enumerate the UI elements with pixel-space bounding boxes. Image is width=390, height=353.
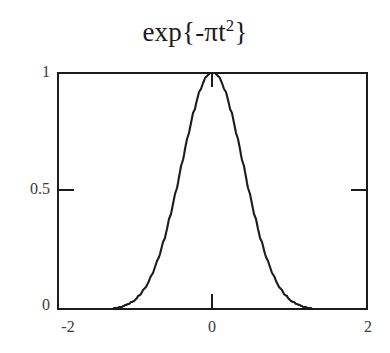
y-axis-tick-label-0: 0 (10, 296, 50, 314)
chart-title-base: exp{-πt (142, 17, 225, 47)
gaussian-plot-figure: exp{-πt2} 1 0.5 0 -2 0 2 (0, 0, 390, 353)
x-axis-tick-label-2: 2 (348, 318, 388, 336)
chart-title-suffix: } (234, 17, 247, 47)
gaussian-curve (57, 72, 368, 310)
x-axis-tick-label-minus2: -2 (48, 318, 88, 336)
y-axis-tick-label-0.5: 0.5 (6, 180, 50, 198)
y-tick-0.5-right (351, 189, 368, 191)
y-axis-tick-label-1: 1 (10, 63, 50, 81)
plot-curve-area (57, 72, 368, 310)
x-tick-0-top (211, 72, 213, 87)
chart-title: exp{-πt2} (0, 18, 390, 46)
x-axis-tick-label-0: 0 (192, 318, 232, 336)
y-tick-0.5-left (57, 189, 74, 191)
x-tick-0-bottom (211, 294, 213, 310)
